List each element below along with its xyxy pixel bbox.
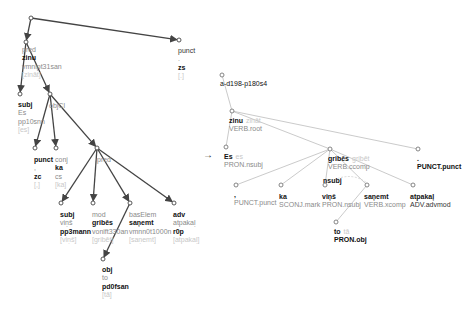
left-node-conj_ka[interactable]: conjkacs[ka] bbox=[55, 156, 68, 190]
tree-node-icon[interactable] bbox=[59, 201, 63, 205]
node-label: punct bbox=[178, 47, 195, 55]
node-label: [viņš] bbox=[60, 236, 91, 244]
left-node-punct_comma[interactable]: punct,zc[,] bbox=[34, 156, 53, 190]
transform-arrow: → bbox=[203, 151, 213, 159]
tree-node-icon[interactable] bbox=[95, 146, 99, 150]
tree-node-icon[interactable] bbox=[18, 92, 22, 96]
node-label: conj bbox=[55, 156, 68, 164]
node-label: [,] bbox=[34, 181, 53, 189]
right-node-to[interactable]: totāPRON.obj bbox=[334, 228, 367, 245]
tree-node-icon[interactable] bbox=[33, 146, 37, 150]
node-tag: PRON.nsubj bbox=[322, 201, 361, 209]
tree-node-icon[interactable] bbox=[172, 201, 176, 205]
node-label: zs bbox=[178, 64, 195, 72]
tree-node-icon[interactable] bbox=[128, 201, 132, 205]
node-label: adv bbox=[173, 211, 199, 219]
node-tag: ADV.advmod bbox=[410, 201, 451, 209]
node-word: gribēs bbox=[328, 155, 349, 162]
tree-node-icon[interactable] bbox=[234, 183, 238, 187]
dependency-edge bbox=[31, 18, 177, 40]
tree-node-icon[interactable] bbox=[29, 16, 33, 20]
node-word: , bbox=[234, 191, 236, 198]
tree-node-icon[interactable] bbox=[101, 257, 105, 261]
tree-node-icon[interactable] bbox=[334, 220, 338, 224]
left-node-baselem[interactable]: basElemsaņemtvmnn0t1000n[saņemt] bbox=[129, 211, 171, 245]
node-label: pred bbox=[97, 156, 111, 164]
node-tag: SCONJ.mark bbox=[279, 201, 320, 209]
node-tag: VERB.xcomp bbox=[364, 201, 406, 209]
node-label: gribēs bbox=[92, 219, 128, 227]
node-label: vonift330an bbox=[92, 228, 128, 236]
node-word: ka bbox=[279, 193, 287, 200]
node-word: . bbox=[417, 155, 419, 162]
node-label: saņemt bbox=[129, 219, 171, 227]
tree-node-icon[interactable] bbox=[411, 183, 415, 187]
node-word: atpakaļ bbox=[410, 193, 434, 200]
right-node-atpakal[interactable]: atpakaļADV.advmod bbox=[410, 193, 451, 210]
right-node-sanemt[interactable]: saņemtVERB.xcomp bbox=[364, 193, 406, 210]
left-node-objcl[interactable]: objCl bbox=[49, 102, 65, 110]
tree-node-icon[interactable] bbox=[24, 40, 28, 44]
left-node-subj_vins[interactable]: subjviņšpp3mann[viņš] bbox=[60, 211, 91, 245]
node-label: ka bbox=[55, 164, 68, 172]
node-label: zinu bbox=[22, 54, 62, 62]
enhanced-label: nsubj bbox=[323, 177, 342, 185]
left-node-adv[interactable]: advatpakaļr0p[atpakaļ] bbox=[173, 211, 199, 245]
sentence-id-label: a-d198-p180s4 bbox=[220, 80, 267, 88]
node-word: viņš bbox=[322, 193, 336, 200]
right-node-es[interactable]: EsesPRON.nsubj bbox=[224, 153, 263, 170]
left-node-subj_es[interactable]: subjEspp10snn[es] bbox=[18, 101, 45, 135]
node-label: [zināt] bbox=[22, 71, 62, 79]
node-lemma: gribēt bbox=[352, 155, 370, 162]
node-label: [atpakaļ] bbox=[173, 236, 199, 244]
node-tag: PUNCT.punct bbox=[417, 163, 461, 171]
left-node-pred_gribes[interactable]: pred bbox=[97, 156, 111, 164]
tree-node-icon[interactable] bbox=[177, 38, 181, 42]
node-word: Es bbox=[224, 153, 233, 160]
node-word: saņemt bbox=[364, 193, 389, 200]
node-label: [tā] bbox=[102, 291, 129, 299]
right-node-ka[interactable]: kaSCONJ.mark bbox=[279, 193, 320, 210]
node-label: r0p bbox=[173, 228, 199, 236]
node-label: mod bbox=[92, 211, 128, 219]
node-lemma: zināt bbox=[246, 117, 261, 124]
left-node-mod_gribes[interactable]: modgribēsvonift330an[gribēt] bbox=[92, 211, 128, 245]
node-word: zinu bbox=[229, 117, 243, 124]
node-label: , bbox=[34, 164, 53, 172]
right-node-gribes[interactable]: gribēsgribētVERB.ccomp bbox=[328, 155, 370, 172]
node-tag: PRON.nsubj bbox=[224, 161, 263, 169]
node-label: basElem bbox=[129, 211, 171, 219]
right-node-comma[interactable]: ,PUNCT.punct bbox=[234, 191, 276, 208]
node-label: atpakaļ bbox=[173, 219, 199, 227]
tree-node-icon[interactable] bbox=[328, 147, 332, 151]
node-tag: PUNCT.punct bbox=[234, 199, 276, 207]
tree-node-icon[interactable] bbox=[224, 145, 228, 149]
tree-node-icon[interactable] bbox=[279, 183, 283, 187]
node-label: subj bbox=[60, 211, 91, 219]
node-label: zc bbox=[34, 173, 53, 181]
right-node-punct_end[interactable]: .PUNCT.punct bbox=[417, 155, 461, 172]
node-lemma: tā bbox=[344, 228, 350, 235]
tree-node-icon[interactable] bbox=[230, 109, 234, 113]
node-label: to bbox=[102, 274, 129, 282]
node-label: pp3mann bbox=[60, 228, 91, 236]
tree-node-icon[interactable] bbox=[220, 73, 224, 77]
tree-node-icon[interactable] bbox=[365, 183, 369, 187]
node-label: [es] bbox=[18, 126, 45, 134]
tree-node-icon[interactable] bbox=[48, 92, 52, 96]
node-lemma: es bbox=[236, 153, 243, 160]
node-label: . bbox=[178, 55, 195, 63]
right-node-zinu[interactable]: zinuzinātVERB.root bbox=[229, 117, 262, 134]
left-node-pred[interactable]: predzinuvmnipt31san[zināt] bbox=[22, 46, 62, 80]
node-label: cs bbox=[55, 173, 68, 181]
right-node-vins[interactable]: viņšPRON.nsubj bbox=[322, 193, 361, 210]
node-label: pd0fsan bbox=[102, 283, 129, 291]
tree-node-icon[interactable] bbox=[91, 201, 95, 205]
node-tag: PRON.obj bbox=[334, 236, 367, 244]
node-label: [.] bbox=[178, 72, 195, 80]
left-node-punct_top[interactable]: punct.zs[.] bbox=[178, 47, 195, 81]
tree-node-icon[interactable] bbox=[416, 147, 420, 151]
left-node-obj_to[interactable]: objtopd0fsan[tā] bbox=[102, 266, 129, 300]
tree-node-icon[interactable] bbox=[54, 146, 58, 150]
node-label: vmnipt31san bbox=[22, 63, 62, 71]
